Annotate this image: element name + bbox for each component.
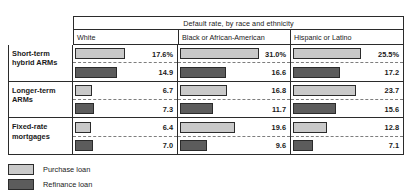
- default-rate-table: Default rate, by race and ethnicity Whit…: [8, 16, 404, 155]
- bar-row-purchase: 31.0%: [178, 45, 290, 63]
- legend-item-purchase-loan: Purchase loan: [8, 163, 188, 176]
- bar-refinance: [180, 67, 226, 78]
- cell-short-term-hybrid-arms-black-or-african-american: 31.0% 16.6: [178, 45, 291, 81]
- table-header-title: Default rate, by race and ethnicity: [73, 16, 404, 30]
- table-header-row: Default rate, by race and ethnicity: [8, 16, 404, 30]
- cell-longer-term-arms-white: 6.7 7.3: [73, 82, 178, 118]
- bar-row-purchase: 23.7: [291, 82, 403, 100]
- table-row: Longer-term ARMs 6.7 7.3: [9, 82, 403, 119]
- column-header-white: White: [73, 30, 179, 45]
- legend-item-refinance-loan: Refinance loan: [8, 178, 188, 191]
- header-corner-spacer: [8, 16, 73, 30]
- bar-row-refinance: 7.1: [291, 137, 403, 154]
- bar-row-refinance: 17.2: [291, 63, 403, 80]
- bar-row-refinance: 15.6: [291, 100, 403, 117]
- value-refinance: 7.1: [389, 141, 399, 150]
- legend-label-purchase-loan: Purchase loan: [43, 165, 90, 174]
- value-refinance: 7.0: [163, 141, 173, 150]
- value-refinance: 17.2: [385, 68, 399, 77]
- default-rate-chart: Default rate, by race and ethnicity Whit…: [0, 0, 413, 192]
- bar-purchase: [180, 48, 259, 59]
- row-cells: 17.6% 14.9 31.0%: [73, 45, 403, 81]
- chart-legend: Purchase loan Refinance loan: [8, 163, 188, 192]
- bar-row-refinance: 11.7: [178, 100, 290, 117]
- value-refinance: 16.6: [272, 68, 286, 77]
- bar-purchase: [293, 85, 356, 96]
- row-label-short-term-hybrid-arms: Short-term hybrid ARMs: [9, 45, 73, 81]
- row-label-longer-term-arms: Longer-term ARMs: [9, 82, 73, 118]
- bar-row-purchase: 25.5%: [291, 45, 403, 63]
- bar-refinance: [293, 103, 336, 114]
- cell-fixed-rate-mortgages-white: 6.4 7.0: [73, 118, 178, 154]
- legend-label-refinance-loan: Refinance loan: [43, 180, 92, 189]
- bar-refinance: [180, 103, 213, 114]
- bar-row-refinance: 14.9: [73, 63, 177, 80]
- legend-swatch-refinance-icon: [8, 179, 34, 190]
- table-body: Short-term hybrid ARMs 17.6% 14.9: [8, 45, 404, 155]
- cell-longer-term-arms-black-or-african-american: 16.8 11.7: [178, 82, 291, 118]
- column-header-hispanic-or-latino: Hispanic or Latino: [290, 30, 404, 45]
- bar-refinance: [75, 67, 117, 78]
- bar-row-refinance: 9.6: [178, 137, 290, 154]
- bar-row-purchase: 12.8: [291, 118, 403, 136]
- value-purchase: 31.0%: [265, 49, 286, 58]
- cell-short-term-hybrid-arms-white: 17.6% 14.9: [73, 45, 178, 81]
- value-purchase: 23.7: [385, 86, 399, 95]
- cell-short-term-hybrid-arms-hispanic-or-latino: 25.5% 17.2: [291, 45, 403, 81]
- bar-refinance: [293, 67, 340, 78]
- bar-row-purchase: 19.6: [178, 118, 290, 136]
- value-refinance: 14.9: [159, 68, 173, 77]
- table-row: Short-term hybrid ARMs 17.6% 14.9: [9, 45, 403, 82]
- bar-row-refinance: 16.6: [178, 63, 290, 80]
- bar-refinance: [180, 140, 207, 151]
- bar-row-purchase: 17.6%: [73, 45, 177, 63]
- table-column-header-row: White Black or African-American Hispanic…: [8, 30, 404, 45]
- value-purchase: 12.8: [385, 123, 399, 132]
- value-purchase: 6.4: [163, 123, 173, 132]
- column-header-black-or-african-american: Black or African-American: [178, 30, 291, 45]
- value-purchase: 19.6: [272, 123, 286, 132]
- cell-longer-term-arms-hispanic-or-latino: 23.7 15.6: [291, 82, 403, 118]
- value-purchase: 16.8: [272, 86, 286, 95]
- table-row: Fixed-rate mortgages 6.4 7.0: [9, 118, 403, 154]
- cell-fixed-rate-mortgages-black-or-african-american: 19.6 9.6: [178, 118, 291, 154]
- row-cells: 6.4 7.0 19.6: [73, 118, 403, 154]
- row-cells: 6.7 7.3 16.8: [73, 82, 403, 118]
- column-header-corner-spacer: [8, 30, 73, 45]
- bar-row-purchase: 16.8: [178, 82, 290, 100]
- value-refinance: 7.3: [163, 104, 173, 113]
- value-refinance: 15.6: [385, 104, 399, 113]
- legend-swatch-purchase-icon: [8, 164, 34, 175]
- value-refinance: 9.6: [276, 141, 286, 150]
- row-label-fixed-rate-mortgages: Fixed-rate mortgages: [9, 118, 73, 154]
- cell-fixed-rate-mortgages-hispanic-or-latino: 12.8 7.1: [291, 118, 403, 154]
- bar-purchase: [75, 122, 91, 133]
- bar-purchase: [180, 122, 235, 133]
- value-purchase: 17.6%: [152, 49, 173, 58]
- bar-row-purchase: 6.7: [73, 82, 177, 100]
- bar-purchase: [75, 85, 92, 96]
- value-purchase: 25.5%: [378, 49, 399, 58]
- value-refinance: 11.7: [272, 104, 286, 113]
- bar-refinance: [75, 140, 93, 151]
- bar-purchase: [293, 122, 327, 133]
- bar-row-refinance: 7.3: [73, 100, 177, 117]
- bar-row-purchase: 6.4: [73, 118, 177, 136]
- bar-purchase: [293, 48, 361, 59]
- bar-refinance: [293, 140, 313, 151]
- bar-row-refinance: 7.0: [73, 137, 177, 154]
- value-purchase: 6.7: [163, 86, 173, 95]
- bar-refinance: [75, 103, 94, 114]
- bar-purchase: [180, 85, 227, 96]
- bar-purchase: [75, 48, 125, 59]
